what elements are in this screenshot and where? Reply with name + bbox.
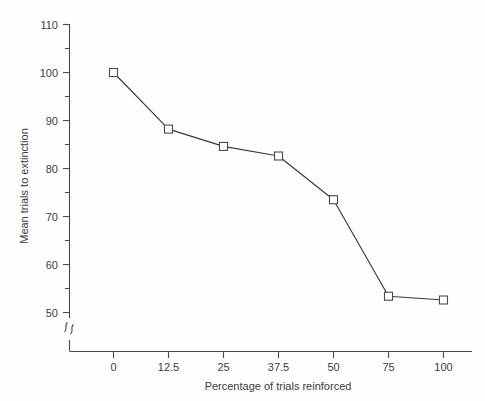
- y-tick-label-110: 110: [40, 19, 58, 31]
- data-series-line: [114, 73, 444, 301]
- x-tick-label-50: 50: [327, 361, 339, 373]
- y-tick-label-50: 50: [46, 307, 58, 319]
- y-tick-label-100: 100: [40, 67, 58, 79]
- y-tick-label-80: 80: [46, 163, 58, 175]
- x-axis-title: Percentage of trials reinforced: [205, 380, 352, 392]
- line-chart-canvas: 110 100 90 80 70 60 50 0 12.5 25 37.5 50…: [0, 0, 485, 401]
- x-tick-label-100: 100: [434, 361, 452, 373]
- data-point-marker[interactable]: [385, 292, 393, 300]
- x-axis-ticks: [114, 352, 444, 359]
- data-point-marker[interactable]: [275, 152, 283, 160]
- y-tick-label-70: 70: [46, 211, 58, 223]
- y-axis-major-ticks: [63, 25, 70, 313]
- chart-figure: 110 100 90 80 70 60 50 0 12.5 25 37.5 50…: [0, 0, 485, 401]
- y-axis-title: Mean trials to extinction: [18, 128, 30, 244]
- data-point-marker[interactable]: [110, 69, 118, 77]
- x-tick-label-75: 75: [382, 361, 394, 373]
- x-tick-label-25: 25: [217, 361, 229, 373]
- data-point-marker[interactable]: [440, 296, 448, 304]
- axis-break-icon: [65, 323, 74, 335]
- y-tick-label-90: 90: [46, 115, 58, 127]
- x-tick-label-37-5: 37.5: [268, 361, 289, 373]
- data-point-marker[interactable]: [330, 196, 338, 204]
- data-point-marker[interactable]: [220, 142, 228, 150]
- data-point-marker[interactable]: [165, 125, 173, 133]
- x-tick-label-12-5: 12.5: [158, 361, 179, 373]
- x-tick-label-0: 0: [110, 361, 116, 373]
- y-tick-label-60: 60: [46, 259, 58, 271]
